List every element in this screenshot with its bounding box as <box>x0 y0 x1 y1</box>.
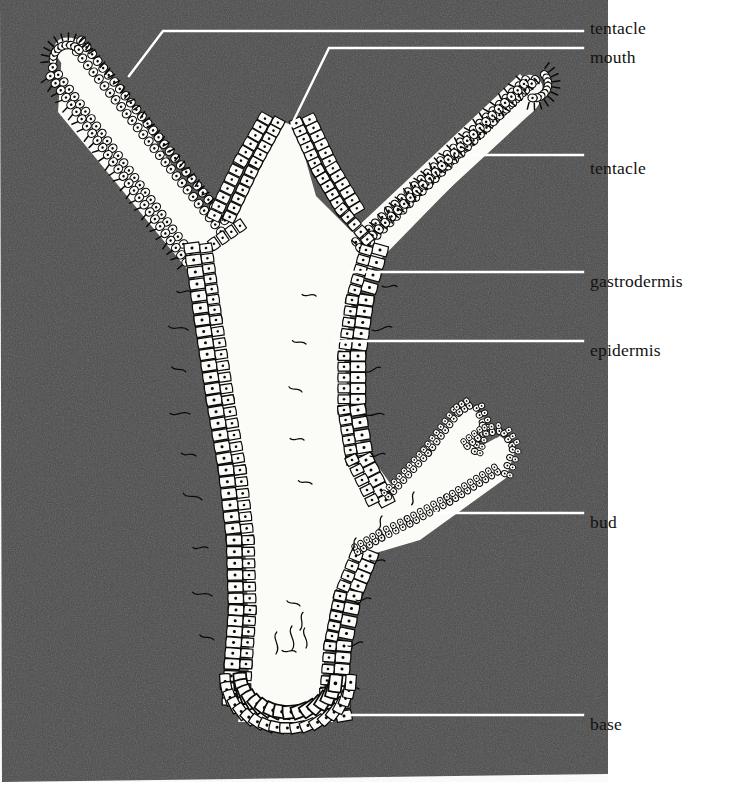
label-base: base <box>590 714 622 734</box>
label-epidermis: epidermis <box>590 340 661 360</box>
label-bud: bud <box>590 512 617 532</box>
hydra-anatomy-figure: tentaclemouthtentaclegastrodermisepiderm… <box>0 0 753 810</box>
label-mouth: mouth <box>590 47 636 67</box>
label-gastrodermis: gastrodermis <box>590 271 683 291</box>
label-tentacle-left: tentacle <box>590 18 646 38</box>
label-tentacle-right: tentacle <box>590 158 646 178</box>
